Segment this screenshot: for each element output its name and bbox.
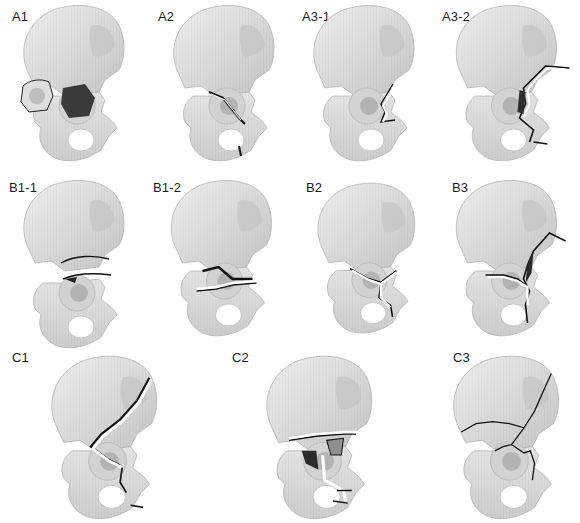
panel-c2: C2 [220,340,400,523]
panel-a1: A1 [0,0,145,170]
panel-b1-2: B1-2 [145,170,295,345]
hemipelvis-illustration [150,0,295,170]
hemipelvis-illustration [0,0,145,170]
hemipelvis-illustration [430,170,580,345]
hemipelvis-illustration [290,0,435,170]
panel-b2: B2 [295,170,435,345]
panel-a3-1: A3-1 [290,0,435,170]
panel-a2: A2 [150,0,295,170]
panel-a3-2: A3-2 [430,0,580,170]
hemipelvis-illustration [420,340,580,523]
panel-c1: C1 [0,340,190,523]
panel-c3: C3 [420,340,580,523]
hemipelvis-illustration [0,170,145,345]
hemipelvis-illustration [430,0,580,170]
hemipelvis-illustration [295,170,435,345]
panel-b3: B3 [430,170,580,345]
hemipelvis-illustration [145,170,295,345]
panel-b1-1: B1-1 [0,170,145,345]
hemipelvis-illustration [0,340,190,523]
hemipelvis-illustration [220,340,400,523]
